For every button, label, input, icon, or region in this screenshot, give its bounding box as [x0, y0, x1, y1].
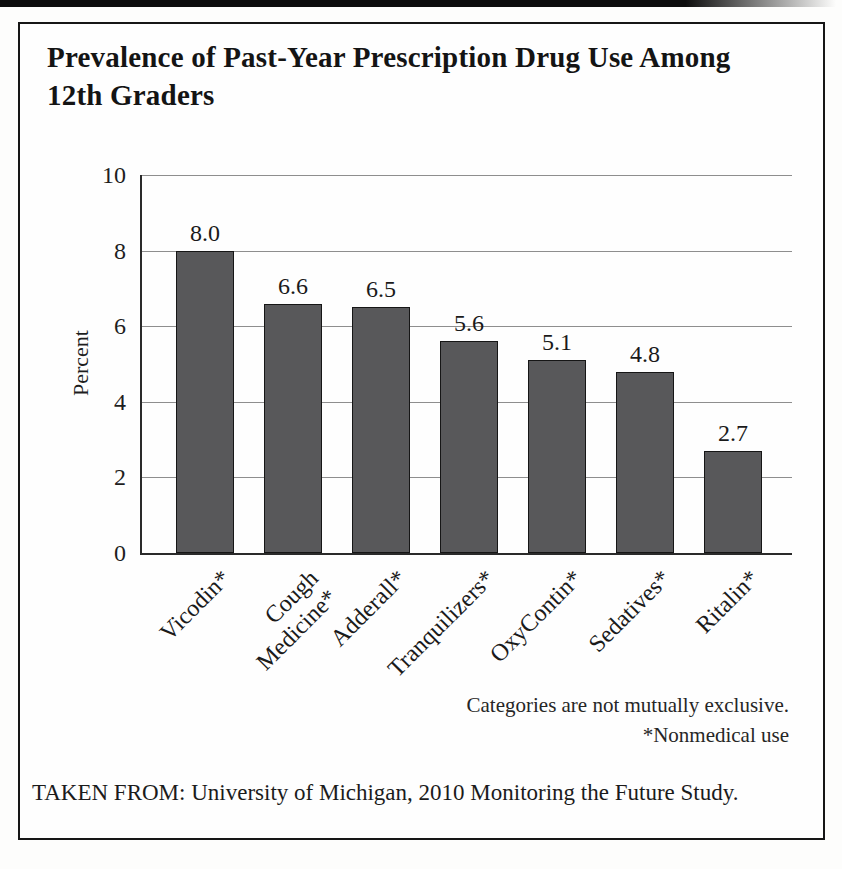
- bar-value-label: 5.1: [512, 327, 602, 357]
- figure-box: Prevalence of Past-Year Prescription Dru…: [18, 22, 825, 840]
- bar-ritalin: [704, 451, 762, 553]
- bar-coughmedicine: [264, 304, 322, 553]
- bar-value-label: 6.6: [248, 271, 338, 301]
- bar-tranquilizers: [440, 341, 498, 553]
- scanned-page: Prevalence of Past-Year Prescription Dru…: [0, 0, 842, 869]
- x-category-label-line: Adderall*: [325, 565, 412, 652]
- y-axis-line: [140, 175, 142, 555]
- x-category-label-line: OxyContin*: [485, 565, 588, 668]
- y-axis-label: Percent: [66, 303, 96, 423]
- bar-value-label: 6.5: [336, 274, 426, 304]
- x-category-label-line: Vicodin*: [155, 565, 236, 646]
- bar-vicodin: [176, 251, 234, 553]
- footnote-nonmedical: *Nonmedical use: [467, 720, 790, 750]
- x-category-label-line: Sedatives*: [583, 565, 676, 658]
- x-category-label: Sedatives*: [583, 565, 676, 658]
- x-axis-line: [140, 553, 792, 555]
- bar-oxycontin: [528, 360, 586, 553]
- bar-value-label: 5.6: [424, 308, 514, 338]
- bar-value-label: 2.7: [688, 418, 778, 448]
- bar-value-label: 4.8: [600, 339, 690, 369]
- footnote-exclusivity: Categories are not mutually exclusive.: [467, 690, 790, 720]
- bar-sedatives: [616, 372, 674, 553]
- x-category-label-line: Ritalin*: [690, 565, 764, 639]
- y-tick-label-8: 8: [70, 236, 126, 266]
- bar-adderall: [352, 307, 410, 553]
- source-attribution: TAKEN FROM: University of Michigan, 2010…: [32, 780, 817, 806]
- y-tick-label-0: 0: [70, 538, 126, 568]
- y-tick-label-10: 10: [70, 160, 126, 190]
- x-category-label: Adderall*: [325, 565, 412, 652]
- gridline-10: [142, 175, 792, 176]
- gridline-8: [142, 251, 792, 252]
- bar-value-label: 8.0: [160, 218, 250, 248]
- x-category-label: OxyContin*: [485, 565, 588, 668]
- chart-footnotes: Categories are not mutually exclusive. *…: [467, 690, 790, 750]
- y-tick-label-2: 2: [70, 462, 126, 492]
- scan-edge-artifact: [0, 0, 836, 7]
- x-category-label: CoughMedicine*: [232, 565, 343, 676]
- x-category-label: Ritalin*: [690, 565, 764, 639]
- x-category-label: Vicodin*: [155, 565, 236, 646]
